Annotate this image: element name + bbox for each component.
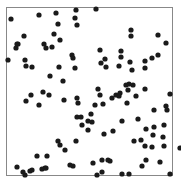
data-point	[161, 143, 166, 148]
data-point	[157, 159, 162, 164]
data-point	[149, 55, 154, 60]
data-point	[29, 167, 34, 172]
data-point	[36, 12, 41, 17]
data-point	[143, 126, 148, 131]
data-point	[74, 95, 79, 100]
data-point	[160, 134, 165, 139]
data-point	[167, 91, 172, 96]
data-point	[110, 128, 115, 133]
data-point	[43, 45, 48, 50]
data-point	[138, 137, 143, 142]
data-point	[105, 157, 110, 162]
data-point	[15, 41, 20, 46]
data-point	[130, 82, 135, 87]
data-point	[99, 157, 104, 162]
data-point	[60, 78, 65, 83]
data-point	[89, 119, 94, 124]
data-point	[124, 100, 129, 105]
data-point	[8, 16, 13, 21]
data-point	[177, 145, 181, 150]
data-point	[46, 92, 51, 97]
data-point	[28, 92, 33, 97]
data-point	[97, 47, 102, 52]
data-point	[21, 33, 26, 38]
data-point	[73, 138, 78, 143]
data-point	[151, 107, 156, 112]
data-point	[102, 56, 107, 61]
data-point	[56, 64, 61, 69]
data-point	[125, 87, 130, 92]
data-point	[22, 57, 27, 62]
data-point	[57, 37, 62, 42]
data-point	[75, 100, 80, 105]
data-point	[72, 15, 77, 20]
data-point	[149, 144, 154, 149]
data-point	[70, 55, 75, 60]
data-point	[97, 92, 102, 97]
data-point	[142, 65, 147, 70]
data-point	[164, 107, 169, 112]
data-point	[133, 93, 138, 98]
data-point	[151, 124, 156, 129]
data-point	[131, 138, 136, 143]
plot-frame	[7, 8, 173, 176]
data-point	[90, 160, 95, 165]
data-point	[128, 33, 133, 38]
data-point	[62, 147, 67, 152]
data-point	[139, 163, 144, 168]
data-point	[72, 65, 77, 70]
data-point	[88, 111, 93, 116]
data-point	[155, 32, 160, 37]
data-point	[55, 21, 60, 26]
data-point	[167, 171, 172, 176]
data-point	[95, 86, 100, 91]
data-point	[129, 67, 134, 72]
data-point	[163, 40, 168, 45]
data-point	[142, 86, 147, 91]
data-point	[123, 82, 128, 87]
data-point	[23, 63, 28, 68]
data-point	[150, 132, 155, 137]
data-point	[40, 89, 45, 94]
data-point	[73, 7, 78, 12]
data-point	[57, 142, 62, 147]
data-point	[99, 169, 104, 174]
data-point	[155, 52, 160, 57]
data-point	[53, 10, 58, 15]
data-point	[85, 127, 90, 132]
data-point	[20, 169, 25, 174]
scatter-plot	[0, 0, 181, 183]
data-point	[103, 64, 108, 69]
data-point	[118, 48, 123, 53]
data-point	[98, 60, 103, 65]
data-point	[93, 6, 98, 11]
data-point	[143, 157, 148, 162]
data-point	[142, 143, 147, 148]
data-point	[119, 171, 124, 176]
data-point	[5, 57, 10, 62]
data-point	[51, 31, 56, 36]
data-point	[29, 64, 34, 69]
data-point	[142, 58, 147, 63]
data-point	[23, 98, 28, 103]
data-point	[67, 162, 72, 167]
data-point	[92, 102, 97, 107]
data-point	[49, 44, 54, 49]
data-point	[94, 172, 99, 177]
data-point	[36, 102, 41, 107]
data-point	[100, 101, 105, 106]
data-point	[44, 153, 49, 158]
data-point	[79, 122, 84, 127]
data-point	[118, 54, 123, 59]
data-point	[78, 114, 83, 119]
data-point	[135, 116, 140, 121]
data-point	[116, 63, 121, 68]
data-point	[47, 73, 52, 78]
data-point	[14, 164, 19, 169]
data-point	[74, 22, 79, 27]
data-point	[117, 90, 122, 95]
data-point	[127, 59, 132, 64]
data-point	[161, 122, 166, 127]
data-point	[34, 153, 39, 158]
data-point	[128, 27, 133, 32]
